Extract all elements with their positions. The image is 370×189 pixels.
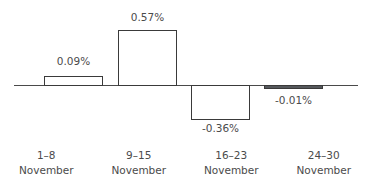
bar-3[interactable] xyxy=(191,85,250,120)
category-label-2: 9–15 November xyxy=(93,148,186,189)
category-label-4: 24–30 November xyxy=(278,148,370,189)
category-4-month: November xyxy=(278,163,370,178)
category-label-3: 16–23 November xyxy=(185,148,278,189)
category-label-1: 1–8 November xyxy=(0,148,93,189)
bar-2[interactable] xyxy=(118,30,177,86)
bar-1-value-label: 0.09% xyxy=(44,55,103,67)
plot-area: 0.09% 0.57% -0.36% -0.01% xyxy=(0,0,370,145)
category-axis: 1–8 November 9–15 November 16–23 Novembe… xyxy=(0,148,370,189)
category-3-month: November xyxy=(185,163,278,178)
bar-chart: 0.09% 0.57% -0.36% -0.01% 1–8 November 9… xyxy=(0,0,370,189)
category-1-month: November xyxy=(0,163,93,178)
category-2-month: November xyxy=(93,163,186,178)
bar-4[interactable] xyxy=(264,85,323,89)
category-2-range: 9–15 xyxy=(93,148,186,163)
bar-2-value-label: 0.57% xyxy=(118,11,177,23)
category-1-range: 1–8 xyxy=(0,148,93,163)
bar-1[interactable] xyxy=(44,76,103,86)
category-4-range: 24–30 xyxy=(278,148,370,163)
bar-3-value-label: -0.36% xyxy=(191,122,250,134)
bar-4-value-label: -0.01% xyxy=(264,94,323,106)
category-3-range: 16–23 xyxy=(185,148,278,163)
